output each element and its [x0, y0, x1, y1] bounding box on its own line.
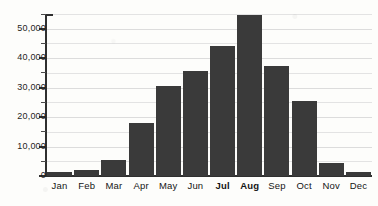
bar-series: [46, 14, 372, 176]
x-axis-tick-label: Apr: [128, 180, 155, 191]
x-axis-tick-label: May: [155, 180, 182, 191]
x-axis-tick-label: Nov: [318, 180, 345, 191]
bar-chart: 010,00020,00030,00040,00050,000 JanFebMa…: [0, 0, 378, 206]
bar[interactable]: [129, 123, 154, 176]
x-axis-tick-label: Jun: [182, 180, 209, 191]
bar[interactable]: [264, 66, 289, 176]
bar[interactable]: [156, 86, 181, 176]
x-axis-tick-label: Aug: [236, 180, 263, 191]
bar-slot: [100, 14, 127, 176]
bar[interactable]: [183, 71, 208, 176]
bar[interactable]: [210, 46, 235, 176]
bar-slot: [182, 14, 209, 176]
y-axis-tick-label: 50,000: [17, 23, 46, 33]
x-axis-tick-label: Jul: [209, 180, 236, 191]
x-axis-tick-label: Sep: [263, 180, 290, 191]
x-axis-tick-labels: JanFebMarAprMayJunJulAugSepOctNovDec: [46, 180, 372, 200]
bar-slot: [209, 14, 236, 176]
x-axis-tick-label: Feb: [73, 180, 100, 191]
bar-slot: [291, 14, 318, 176]
bar[interactable]: [319, 163, 344, 176]
bar-slot: [263, 14, 290, 176]
bar-slot: [46, 14, 73, 176]
bar[interactable]: [346, 172, 371, 176]
bar-slot: [236, 14, 263, 176]
y-axis-tick-label: 10,000: [17, 141, 46, 151]
bar-slot: [155, 14, 182, 176]
bar[interactable]: [74, 170, 99, 176]
x-axis-tick-label: Oct: [291, 180, 318, 191]
bar-slot: [345, 14, 372, 176]
bar[interactable]: [237, 15, 262, 176]
x-axis-tick-label: Dec: [345, 180, 372, 191]
x-axis-tick-label: Mar: [100, 180, 127, 191]
bar[interactable]: [292, 101, 317, 176]
bar-slot: [73, 14, 100, 176]
y-axis-tick-label: 40,000: [17, 52, 46, 62]
bar-slot: [128, 14, 155, 176]
y-axis-tick-label: 30,000: [17, 82, 46, 92]
bar[interactable]: [101, 160, 126, 176]
y-axis-tick-label: 20,000: [17, 111, 46, 121]
bar[interactable]: [47, 172, 72, 176]
x-axis-tick-label: Jan: [46, 180, 73, 191]
bar-slot: [318, 14, 345, 176]
